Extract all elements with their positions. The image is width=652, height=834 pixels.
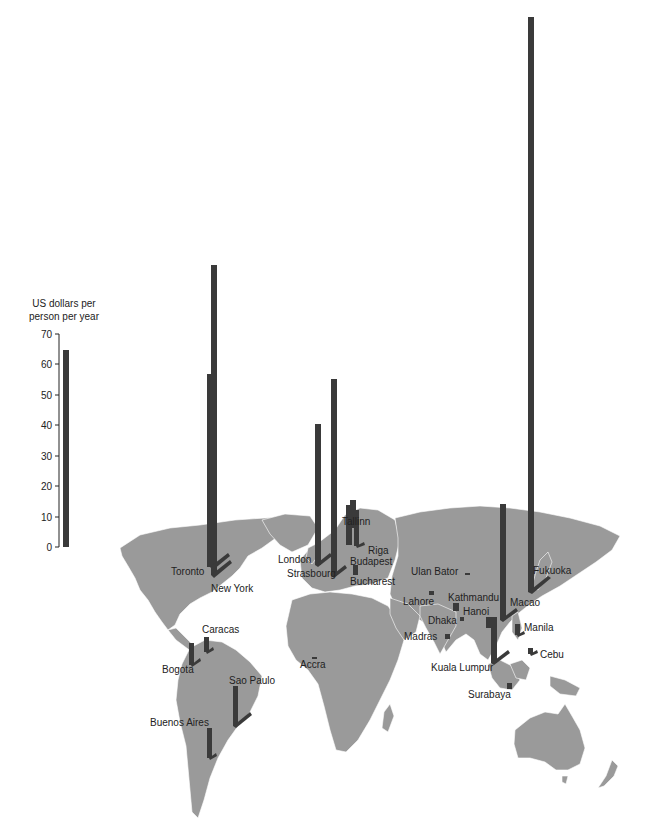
bar-madras <box>445 634 450 639</box>
land-tasmania <box>562 776 568 784</box>
tick-40: 40 <box>41 420 53 431</box>
label-toronto: Toronto <box>171 566 205 577</box>
label-tallinn: Tallinn <box>342 516 370 527</box>
label-cebu: Cebu <box>540 649 564 660</box>
label-kathmandu: Kathmandu <box>448 592 499 603</box>
land-new-guinea <box>550 676 580 696</box>
world-map-chart: 0 10 20 30 40 50 60 70 <box>0 0 652 834</box>
label-strasbourg: Strasbourg <box>287 568 336 579</box>
legend-tick-labels: 0 10 20 30 40 50 60 70 <box>41 329 53 553</box>
legend-bar <box>63 350 69 547</box>
label-manila: Manila <box>524 622 554 633</box>
label-buenos-aires: Buenos Aires <box>150 717 209 728</box>
tick-20: 20 <box>41 481 53 492</box>
bar-macao <box>500 504 506 620</box>
label-madras: Madras <box>404 631 437 642</box>
label-macao: Macao <box>510 597 540 608</box>
bar-london <box>315 424 321 565</box>
bar-caracas <box>204 637 209 652</box>
bar-bogota <box>189 643 194 665</box>
label-bucharest: Bucharest <box>350 576 395 587</box>
bar-lahore <box>429 591 434 595</box>
bar-manila <box>515 624 520 635</box>
bar-ulan-bator <box>465 573 470 575</box>
label-sao-paulo: Sao Paulo <box>229 675 276 686</box>
tick-50: 50 <box>41 390 53 401</box>
label-surabaya: Surabaya <box>468 689 511 700</box>
label-accra: Accra <box>300 659 326 670</box>
label-ulan-bator: Ulan Bator <box>411 566 459 577</box>
label-kuala-lumpur: Kuala Lumpur <box>431 662 494 673</box>
bar-dhaka <box>460 617 464 621</box>
label-dhaka: Dhaka <box>428 615 457 626</box>
bar-fukuoka <box>528 17 534 592</box>
land-greenland <box>262 514 318 552</box>
tick-0: 0 <box>46 542 52 553</box>
bar-hanoi <box>486 617 492 628</box>
label-riga: Riga <box>368 545 389 556</box>
tick-60: 60 <box>41 359 53 370</box>
bar-strasbourg <box>331 379 337 576</box>
bar-toronto <box>207 374 213 567</box>
label-hanoi: Hanoi <box>463 606 489 617</box>
land-australia <box>514 704 585 770</box>
label-caracas: Caracas <box>202 624 239 635</box>
bar-buenos-aires <box>207 728 212 758</box>
legend-axis <box>55 334 59 547</box>
bar-sao-paulo <box>233 686 238 726</box>
label-bogota: Bogota <box>162 664 194 675</box>
tick-70: 70 <box>41 329 53 340</box>
tick-10: 10 <box>41 512 53 523</box>
land-new-zealand <box>598 760 618 788</box>
label-fukuoka: Fukuoka <box>533 565 572 576</box>
land-madagascar <box>382 704 394 732</box>
label-budapest: Budapest <box>350 556 392 567</box>
label-new-york: New York <box>211 583 254 594</box>
label-lahore: Lahore <box>403 596 435 607</box>
tick-30: 30 <box>41 451 53 462</box>
bar-kathmandu <box>453 603 459 611</box>
label-london: London <box>278 554 311 565</box>
